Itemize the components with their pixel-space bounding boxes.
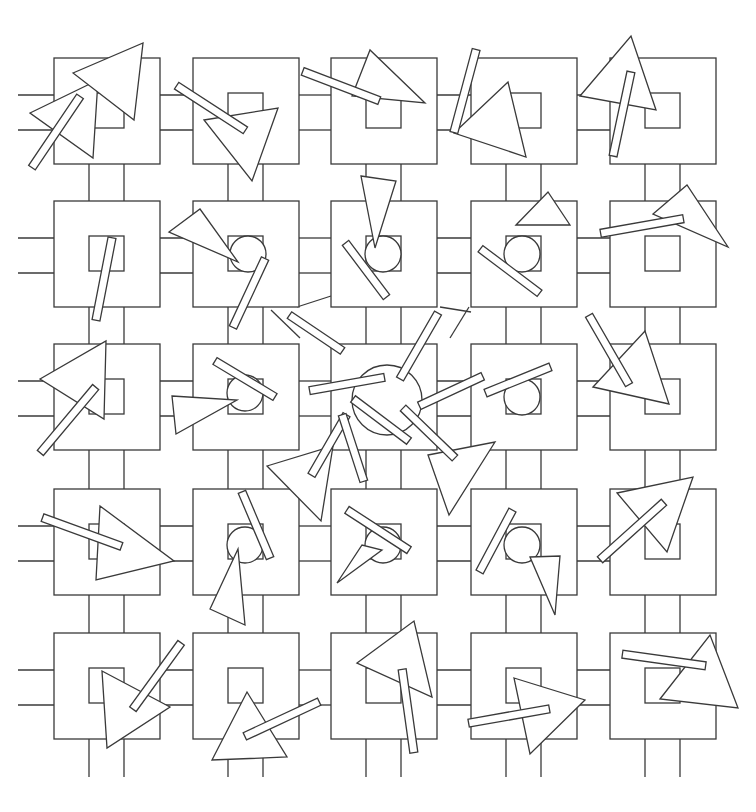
stray-line xyxy=(450,307,469,338)
line-art-canvas xyxy=(0,0,756,812)
stray-line xyxy=(297,296,331,307)
circle-shape xyxy=(365,236,401,272)
